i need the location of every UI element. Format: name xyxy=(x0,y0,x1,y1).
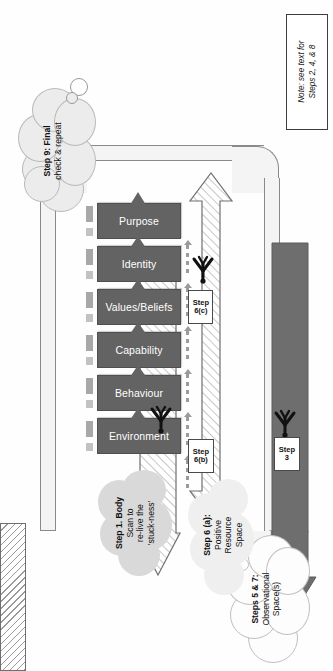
stick-figure-step-3 xyxy=(272,409,298,439)
cloud-step-6a-line-3: Resource xyxy=(223,495,234,575)
level-label-capability: Capability xyxy=(115,344,162,356)
diagram-canvas: Note: see text for Steps 2, 4, & 8 xyxy=(0,0,333,671)
stub-identity-b xyxy=(86,249,93,265)
cloud-step-6a: Step 6 (a): Positive Resource Space xyxy=(188,477,256,595)
level-box-capability[interactable]: Capability xyxy=(97,332,181,368)
rotated-diagram-body: Purpose Identity Values/Beliefs Capabili… xyxy=(0,0,333,671)
stub-identity-a xyxy=(86,271,93,279)
level-box-values[interactable]: Values/Beliefs xyxy=(97,289,181,325)
step-3-line-2: 3 xyxy=(279,454,295,462)
step-label-3[interactable]: Step 3 xyxy=(274,437,300,471)
level-connector-arrow-4 xyxy=(126,279,150,291)
level-connector-arrow-3 xyxy=(126,322,150,334)
stick-figure-step-6b xyxy=(148,405,174,435)
cloud-step-1: Step 1. Body Scan to re-live the 'stuck-… xyxy=(98,468,174,576)
stub-purpose-a xyxy=(86,228,93,236)
cloud-tail-bubble-small xyxy=(66,92,78,104)
cloud-step-9: Step 9: Final check & repeat xyxy=(18,86,96,216)
dotted-connector-cap-capability xyxy=(184,369,192,374)
feedback-ribbon-top xyxy=(40,178,56,531)
level-box-purpose[interactable]: Purpose xyxy=(97,203,181,239)
cloud-step-9-text: Step 9: Final check & repeat xyxy=(42,116,63,186)
cloud-steps-5-7-line-3: Space(s) xyxy=(271,559,282,639)
level-label-values: Values/Beliefs xyxy=(105,301,172,313)
level-connector-arrow-2 xyxy=(126,365,150,377)
level-connector-arrow-1 xyxy=(126,408,150,420)
cloud-step-1-line-1: Step 1. Body xyxy=(114,497,124,549)
step-label-6c[interactable]: Step 6(c) xyxy=(188,290,213,324)
dotted-connector-cap-values xyxy=(184,326,192,331)
stub-environment-a xyxy=(86,443,93,451)
stick-figure-step-6c xyxy=(190,255,216,285)
cloud-step-6a-text: Step 6 (a): Positive Resource Space xyxy=(202,495,245,575)
step-label-6b[interactable]: Step 6(b) xyxy=(188,439,214,473)
dotted-connector-cap-purpose xyxy=(184,240,192,245)
level-box-identity[interactable]: Identity xyxy=(97,246,181,282)
cloud-step-6a-line-1: Step 6 (a): xyxy=(202,514,212,556)
stub-behaviour-b xyxy=(86,378,93,394)
level-label-identity: Identity xyxy=(122,258,157,270)
stub-values-a xyxy=(86,314,93,322)
dotted-connector-cap-behaviour xyxy=(184,412,192,417)
level-label-behaviour: Behaviour xyxy=(115,387,163,399)
stub-values-b xyxy=(86,292,93,308)
stub-behaviour-a xyxy=(86,400,93,408)
step-6b-line-2: 6(b) xyxy=(193,456,209,464)
cloud-step-1-text: Step 1. Body Scan to re-live the 'stuck-… xyxy=(114,486,157,560)
cloud-steps-5-7-line-2: Observational xyxy=(261,559,272,639)
cloud-step-6a-line-2: Positive xyxy=(213,495,224,575)
cloud-step-9-line-1: Step 9: Final xyxy=(42,125,52,176)
step-6c-hatched-bar xyxy=(0,523,26,671)
step-6c-line-2: 6(c) xyxy=(192,307,208,315)
cloud-step-1-line-2: Scan to xyxy=(125,486,136,560)
stub-capability-b xyxy=(86,335,93,351)
stub-environment-b xyxy=(86,421,93,437)
dotted-connector-values xyxy=(186,329,189,359)
dotted-connector-purpose xyxy=(186,243,189,273)
cloud-step-9-line-2: check & repeat xyxy=(53,116,64,186)
cloud-step-1-line-4: 'stuck-ness' xyxy=(146,486,157,560)
cloud-step-1-line-3: re-live the xyxy=(135,486,146,560)
dotted-connector-capability xyxy=(186,372,189,402)
level-label-purpose: Purpose xyxy=(119,215,159,227)
cloud-step-6a-line-4: Space xyxy=(234,495,245,575)
level-connector-arrow-top xyxy=(126,192,150,205)
stub-capability-a xyxy=(86,357,93,365)
level-connector-arrow-5 xyxy=(126,236,150,248)
